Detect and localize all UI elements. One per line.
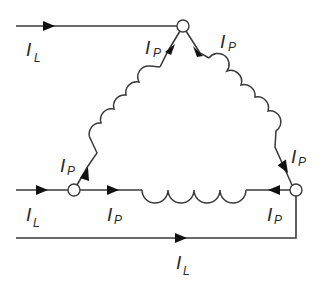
top-node	[177, 20, 189, 32]
delta-connection-diagram: I L I P I P I P I L I P I P I P I L	[0, 0, 319, 297]
right-node	[290, 184, 302, 196]
svg-text:P: P	[274, 213, 282, 227]
svg-text:P: P	[228, 40, 236, 54]
left-node	[68, 184, 80, 196]
svg-text:I: I	[26, 204, 32, 225]
top-line-arrow-icon	[43, 21, 55, 31]
svg-text:P: P	[298, 155, 306, 169]
svg-text:P: P	[67, 164, 75, 178]
label-left-line: I L	[26, 204, 40, 230]
bottom-left-arrow-icon	[107, 185, 119, 195]
svg-text:P: P	[153, 46, 161, 60]
svg-text:I: I	[107, 204, 113, 225]
svg-text:I: I	[176, 252, 182, 273]
label-left-phase-right: I P	[107, 204, 122, 227]
bottom-right-arrow-icon	[268, 185, 280, 195]
label-left-phase-up: I P	[60, 155, 75, 178]
left-line-arrow-icon	[36, 185, 48, 195]
svg-text:L: L	[33, 216, 40, 230]
bottom-line-arrow-icon	[175, 233, 187, 243]
label-top-line: I L	[26, 39, 41, 65]
svg-text:I: I	[291, 146, 297, 167]
label-bottom-line: I L	[176, 252, 190, 278]
top-right-arrow-icon	[193, 46, 203, 57]
label-top-right-phase: I P	[220, 31, 236, 54]
svg-text:I: I	[26, 39, 32, 60]
bottom-winding	[142, 190, 246, 203]
svg-text:I: I	[60, 155, 66, 176]
svg-text:P: P	[114, 213, 122, 227]
svg-text:L: L	[183, 264, 190, 278]
svg-text:L: L	[34, 51, 41, 65]
svg-text:I: I	[145, 37, 151, 58]
label-right-phase-left: I P	[267, 204, 282, 227]
left-winding	[88, 66, 160, 166]
svg-text:I: I	[267, 204, 273, 225]
label-right-phase-up: I P	[291, 146, 306, 169]
svg-text:I: I	[220, 31, 226, 52]
label-top-left-phase: I P	[145, 37, 161, 60]
